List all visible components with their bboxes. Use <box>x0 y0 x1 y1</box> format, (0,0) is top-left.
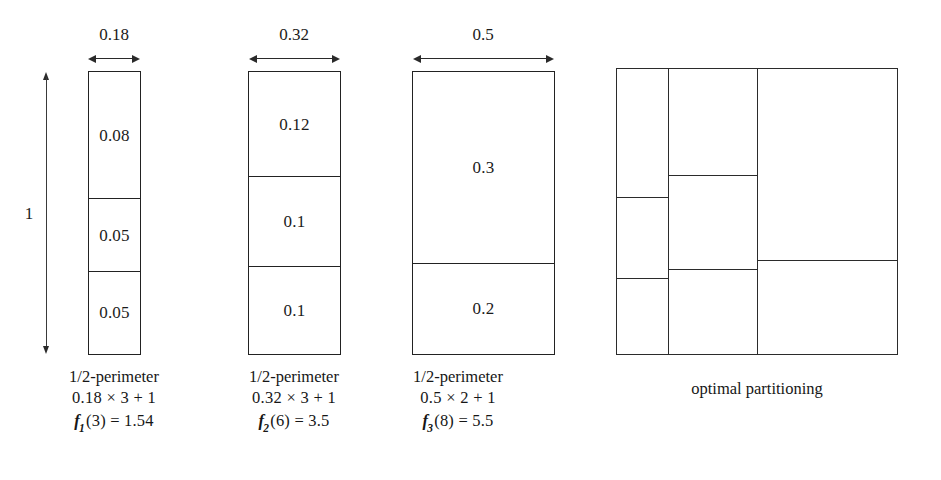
arrow-shaft-vertical <box>46 77 47 349</box>
bar-1-cell-1-label: 0.08 <box>99 127 130 144</box>
bar-3-width-label: 0.5 <box>432 26 534 43</box>
bar-2: 0.12 0.1 0.1 <box>248 71 341 355</box>
bar-2-fn-subscript: 2 <box>263 422 269 434</box>
bar-2-cell-2: 0.1 <box>249 176 340 266</box>
bar-3-width-arrow <box>413 58 554 59</box>
bar-1-caption-formula: 0.18 × 3 + 1 <box>14 387 214 408</box>
bar-3-fn-subscript: 3 <box>427 422 433 434</box>
bar-1-cell-3: 0.05 <box>89 271 140 353</box>
bar-1-cell-2-label: 0.05 <box>99 227 130 244</box>
bar-1-caption-title: 1/2-perimeter <box>14 366 214 387</box>
bar-1-cell-1: 0.08 <box>89 72 140 198</box>
bar-1-fn-value: = 1.54 <box>110 411 154 430</box>
bar-2-cell-2-label: 0.1 <box>284 213 306 230</box>
bar-3-caption-function: f3(8) = 5.5 <box>358 410 558 437</box>
arrow-shaft-horizontal <box>419 58 548 59</box>
partition-column-1 <box>617 69 669 354</box>
arrow-head-right <box>546 55 554 63</box>
bar-2-fn-arg: (6) <box>270 411 290 430</box>
optimal-partitioning-label: optimal partitioning <box>637 379 877 399</box>
bar-3-caption-title: 1/2-perimeter <box>358 366 558 387</box>
bar-1-fn-subscript: 1 <box>79 422 85 434</box>
bar-1-cell-3-label: 0.05 <box>99 304 130 321</box>
unit-height-arrow <box>46 72 47 354</box>
arrow-head-right <box>332 55 340 63</box>
optimal-partitioning-diagram <box>616 68 898 355</box>
bar-2-cell-3: 0.1 <box>249 266 340 353</box>
bar-3: 0.3 0.2 <box>412 71 555 355</box>
unit-height-label: 1 <box>18 205 40 222</box>
bar-1-caption-function: f1(3) = 1.54 <box>14 410 214 437</box>
figure-canvas: 1 0.18 0.08 0.05 0.05 1/2-perimeter 0.18… <box>0 0 941 480</box>
bar-1-width-arrow <box>88 58 140 59</box>
bar-3-cell-2-label: 0.2 <box>473 300 495 317</box>
bar-1: 0.08 0.05 0.05 <box>88 71 141 355</box>
bar-2-cell-1: 0.12 <box>249 72 340 176</box>
bar-3-caption-formula: 0.5 × 2 + 1 <box>358 387 558 408</box>
bar-3-cell-2: 0.2 <box>413 263 554 353</box>
bar-1-width-label: 0.18 <box>63 26 165 43</box>
bar-3-caption: 1/2-perimeter 0.5 × 2 + 1 f3(8) = 5.5 <box>358 366 558 437</box>
bar-2-width-arrow <box>249 58 340 59</box>
bar-1-caption: 1/2-perimeter 0.18 × 3 + 1 f1(3) = 1.54 <box>14 366 214 437</box>
partition-column-2 <box>669 69 758 354</box>
bar-1-cell-2: 0.05 <box>89 198 140 271</box>
bar-3-fn-arg: (8) <box>434 411 454 430</box>
partition-column-3 <box>758 69 897 354</box>
bar-1-fn-arg: (3) <box>86 411 106 430</box>
bar-3-fn-value: = 5.5 <box>458 411 493 430</box>
partition-cell-2-3 <box>669 269 757 354</box>
arrow-shaft-horizontal <box>94 58 134 59</box>
partition-cell-1-3 <box>617 278 668 354</box>
bar-2-cell-1-label: 0.12 <box>279 116 310 133</box>
arrow-head-right <box>132 55 140 63</box>
partition-cell-1-2 <box>617 197 668 278</box>
bar-3-cell-1: 0.3 <box>413 72 554 263</box>
arrow-head-down <box>43 346 49 354</box>
partition-cell-1-1 <box>617 69 668 197</box>
bar-3-cell-1-label: 0.3 <box>473 159 495 176</box>
partition-cell-3-1 <box>758 69 897 260</box>
bar-2-cell-3-label: 0.1 <box>284 302 306 319</box>
arrow-shaft-horizontal <box>255 58 334 59</box>
partition-cell-3-2 <box>758 260 897 354</box>
partition-cell-2-2 <box>669 175 757 269</box>
partition-cell-2-1 <box>669 69 757 175</box>
bar-2-fn-value: = 3.5 <box>294 411 329 430</box>
bar-2-width-label: 0.32 <box>243 26 345 43</box>
